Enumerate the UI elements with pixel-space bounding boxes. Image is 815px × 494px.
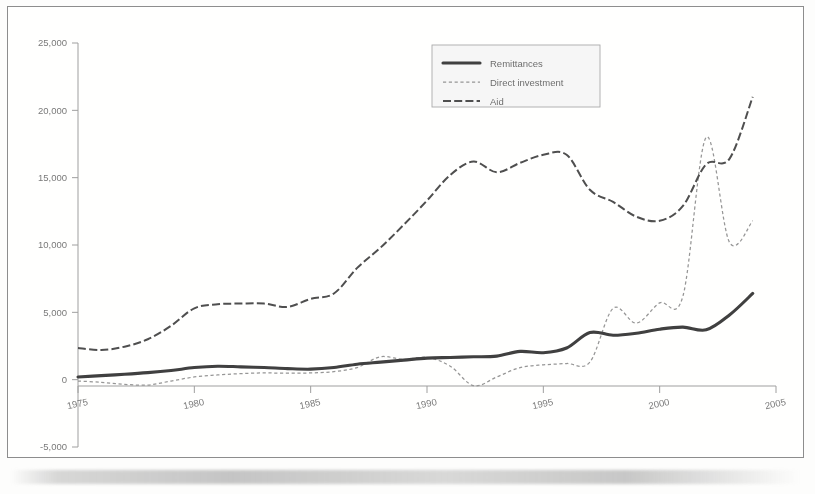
scanned-page: -5,00005,00010,00015,00020,00025,000 197…: [0, 0, 815, 494]
y-axis-ticks: [72, 43, 78, 447]
y-tick-label: 20,000: [38, 105, 67, 116]
x-tick-label: 1990: [415, 396, 438, 411]
x-axis-ticks: [78, 386, 776, 393]
figure-frame: -5,00005,00010,00015,00020,00025,000 197…: [7, 6, 804, 458]
y-tick-label: 25,000: [38, 37, 67, 48]
y-tick-label: 15,000: [38, 172, 67, 183]
chart-svg: -5,00005,00010,00015,00020,00025,000 197…: [8, 7, 805, 459]
y-tick-label: 0: [62, 374, 67, 385]
chart-legend: RemittancesDirect investmentAid: [432, 45, 600, 107]
x-tick-label: 1995: [531, 396, 554, 411]
x-tick-label: 2005: [764, 396, 787, 411]
series-line-aid: [78, 97, 753, 350]
y-tick-label: 5,000: [43, 307, 67, 318]
scan-artifact-smudge: [10, 470, 800, 484]
x-axis-tick-labels: 1975198019851990199520002005: [66, 396, 787, 411]
x-tick-label: 1980: [182, 396, 205, 411]
y-axis-tick-labels: -5,00005,00010,00015,00020,00025,000: [38, 37, 67, 452]
legend-label-2: Aid: [490, 96, 504, 107]
legend-label-1: Direct investment: [490, 77, 564, 88]
x-tick-label: 2000: [647, 396, 670, 411]
series-line-direct-investment: [78, 137, 753, 386]
data-series-group: [78, 97, 753, 386]
series-line-remittances: [78, 293, 753, 376]
y-tick-label: 10,000: [38, 239, 67, 250]
line-chart: -5,00005,00010,00015,00020,00025,000 197…: [8, 7, 805, 459]
x-tick-label: 1975: [66, 396, 89, 411]
y-tick-label: -5,000: [40, 441, 67, 452]
legend-label-0: Remittances: [490, 58, 543, 69]
x-tick-label: 1985: [298, 396, 321, 411]
